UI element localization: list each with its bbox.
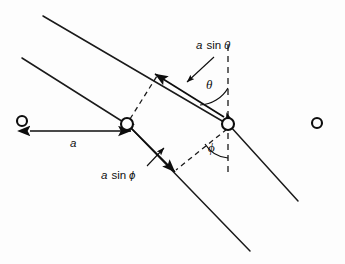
label-a-sin-theta-sin: sin [206,39,221,51]
path-difference-theta-double-arrow [155,74,224,117]
label-a-sin-phi: asinϕ [101,169,136,181]
label-spacing-a: a [70,137,76,149]
label-a-sin-phi-sin: sin [111,169,126,181]
scattered-wavefront-upper-line [230,126,298,201]
atom-scatterer-left-circle [121,118,133,130]
label-a-sin-phi-a: a [101,169,107,181]
label-a-sin-theta: asinθ [196,39,231,51]
theta-angle-arc [200,88,228,105]
construction-line-group [130,76,227,170]
label-a-sin-theta-a: a [196,39,202,51]
label-angle-phi: ϕ [208,140,215,155]
atom-scatterer-right-circle [222,118,234,130]
leader-a-sin-phi-line [147,148,164,166]
label-a-sin-theta-angle: θ [224,39,231,51]
path-difference-phi-double-arrow [131,128,175,172]
perpendicular-lower-dashed [176,129,227,170]
label-group: asinθ asinϕ a θ ϕ [70,39,231,181]
perpendicular-upper-dashed [130,76,157,119]
wavefront-line-group [22,16,298,251]
diagram-canvas: asinθ asinϕ a θ ϕ [0,0,345,264]
label-angle-theta: θ [206,77,213,92]
incident-wavefront-lower-line [22,58,128,125]
atom-group [17,116,322,130]
label-a-sin-phi-angle: ϕ [129,169,136,181]
atom-far-left-circle [17,116,27,126]
atom-far-right-circle [312,118,322,128]
leader-line-group [147,57,214,166]
diffraction-path-difference-figure: asinθ asinϕ a θ ϕ [0,0,345,264]
